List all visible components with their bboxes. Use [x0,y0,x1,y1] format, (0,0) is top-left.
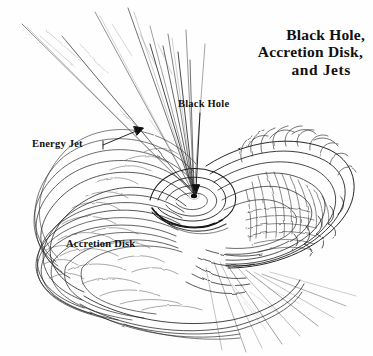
label-accretion-disk: Accretion Disk [66,238,135,249]
title-line-1: Black Hole, [258,26,365,43]
label-energy-jet: Energy Jet [32,138,83,149]
black-hole-diagram: Black Hole, Accretion Disk, and Jets Bla… [0,0,373,356]
figure-title: Black Hole, Accretion Disk, and Jets [258,26,365,78]
title-line-2: Accretion Disk, [258,43,365,60]
label-black-hole: Black Hole [178,98,229,109]
title-line-3: and Jets [258,61,365,78]
